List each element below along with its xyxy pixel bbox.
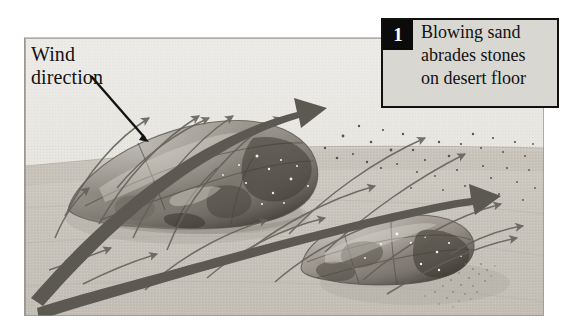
caption-step-number: 1 [383,20,413,50]
caption-box: 1 Blowing sand abrades stones on desert … [381,18,559,108]
caption-text: Blowing sand abrades stones on desert fl… [413,20,530,90]
wind-direction-label: Wind direction [31,43,103,89]
figure-container: Wind direction 1 Blowing sand abrades st… [0,0,583,333]
